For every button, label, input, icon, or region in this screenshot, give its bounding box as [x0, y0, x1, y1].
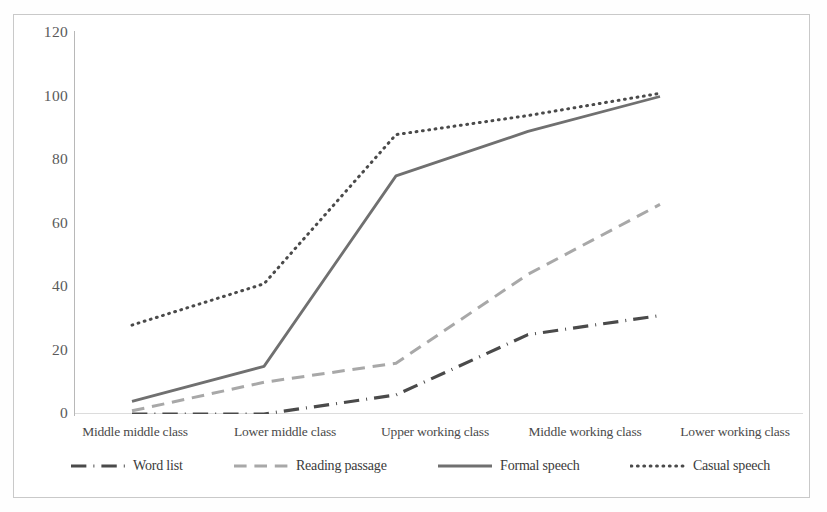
- x-label-0: Middle middle class: [60, 424, 210, 440]
- y-tick-40: 40: [6, 277, 68, 295]
- legend-item-word-list[interactable]: Word list: [70, 458, 183, 474]
- x-axis-category-labels: Middle middle classLower middle classUpp…: [60, 424, 810, 440]
- y-tick-60: 60: [6, 214, 68, 232]
- series-line-word-list: [132, 316, 660, 414]
- legend-label-2: Formal speech: [500, 458, 579, 474]
- legend-item-formal-speech[interactable]: Formal speech: [437, 458, 579, 474]
- legend-item-casual-speech[interactable]: Casual speech: [630, 458, 770, 474]
- dash-dot-swatch: [70, 460, 126, 472]
- legend-label-0: Word list: [133, 458, 183, 474]
- x-label-3: Middle working class: [510, 424, 660, 440]
- series-line-casual-speech: [132, 93, 660, 325]
- line-chart-figure: 120100806040200 Middle middle classLower…: [0, 0, 827, 512]
- series-line-formal-speech: [132, 97, 660, 402]
- dotted-swatch: [630, 460, 686, 472]
- legend-label-1: Reading passage: [296, 458, 387, 474]
- plot-area: [75, 33, 735, 414]
- x-label-4: Lower working class: [660, 424, 810, 440]
- solid-swatch: [437, 460, 493, 472]
- x-label-1: Lower middle class: [210, 424, 360, 440]
- legend-item-reading-passage[interactable]: Reading passage: [233, 458, 387, 474]
- series-lines-svg: [75, 33, 735, 414]
- dashed-swatch: [233, 460, 289, 472]
- legend-label-3: Casual speech: [693, 458, 770, 474]
- chart-legend: Word listReading passageFormal speechCas…: [60, 458, 780, 474]
- y-axis-tick-labels: 120100806040200: [0, 0, 68, 460]
- y-tick-0: 0: [6, 404, 68, 422]
- y-tick-120: 120: [6, 23, 68, 41]
- y-tick-20: 20: [6, 341, 68, 359]
- y-tick-100: 100: [6, 87, 68, 105]
- y-tick-80: 80: [6, 150, 68, 168]
- x-label-2: Upper working class: [360, 424, 510, 440]
